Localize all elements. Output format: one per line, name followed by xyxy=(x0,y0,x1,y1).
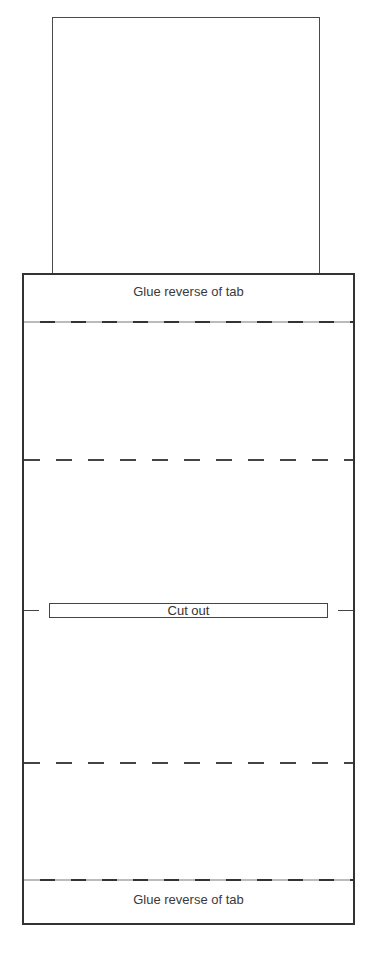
fold-line-upper xyxy=(24,459,353,461)
main-template-box: Glue reverse of tab Cut out Glue reverse… xyxy=(22,273,355,925)
cut-out-label: Cut out xyxy=(168,603,210,618)
cut-tick-right xyxy=(338,610,353,611)
fold-line-lower xyxy=(24,762,353,764)
cut-tick-left xyxy=(24,610,39,611)
glue-tab-top-label: Glue reverse of tab xyxy=(24,284,353,299)
top-card-panel xyxy=(52,17,320,273)
glue-tab-bottom-label: Glue reverse of tab xyxy=(24,892,353,907)
cut-out-slot: Cut out xyxy=(49,603,328,618)
fold-line-bottom-glue xyxy=(24,879,353,881)
fold-line-top-glue xyxy=(24,321,353,323)
